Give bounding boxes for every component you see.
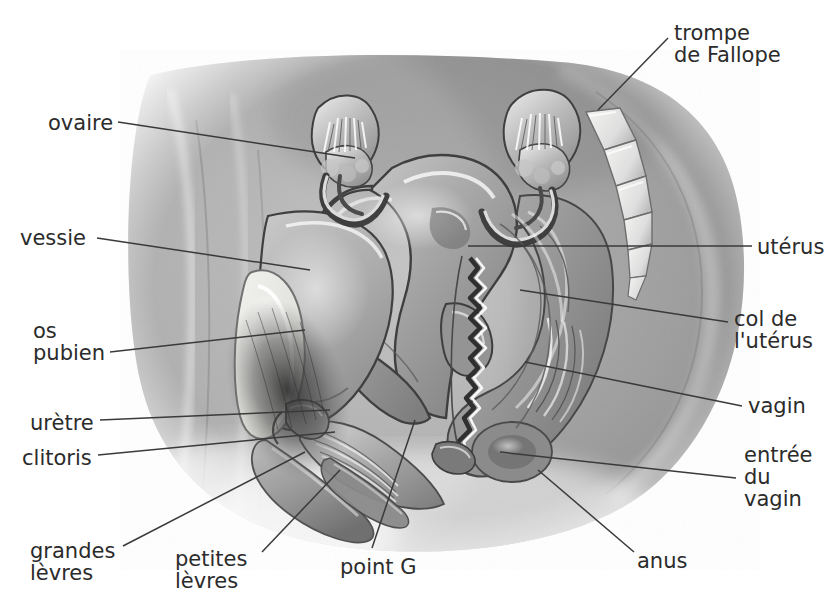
- label-uterus: utérus: [757, 236, 824, 258]
- label-line: col de: [734, 308, 813, 330]
- diagram-canvas: trompede Fallopeovairevessieutéruscol de…: [0, 0, 839, 613]
- label-line: clitoris: [22, 447, 92, 469]
- label-line: lèvres: [30, 562, 115, 584]
- label-anus: anus: [637, 550, 687, 572]
- label-line: lèvres: [175, 570, 247, 592]
- label-line: vagin: [748, 395, 806, 417]
- label-os-pubien: ospubien: [33, 320, 105, 364]
- label-col-de-l-uterus: col del'utérus: [734, 308, 813, 352]
- label-line: pubien: [33, 342, 105, 364]
- label-line: vagin: [744, 488, 812, 510]
- label-line: ovaire: [48, 112, 113, 134]
- label-line: urètre: [30, 412, 94, 434]
- label-grandes-levres: grandeslèvres: [30, 540, 115, 584]
- anus-structure: [472, 422, 552, 482]
- label-petites-levres: petiteslèvres: [175, 548, 247, 592]
- label-line: utérus: [757, 236, 824, 258]
- label-ovaire: ovaire: [48, 112, 113, 134]
- label-vessie: vessie: [20, 227, 86, 249]
- label-trompe-de-fallope: trompede Fallope: [674, 22, 781, 66]
- label-line: trompe: [674, 22, 781, 44]
- anatomy-illustration: [0, 0, 839, 613]
- label-point-g: point G: [340, 556, 417, 578]
- label-line: de Fallope: [674, 44, 781, 66]
- label-line: entrée: [744, 444, 812, 466]
- label-line: os: [33, 320, 105, 342]
- label-uretre: urètre: [30, 412, 94, 434]
- label-clitoris: clitoris: [22, 447, 92, 469]
- label-line: petites: [175, 548, 247, 570]
- label-line: du: [744, 466, 812, 488]
- label-line: vessie: [20, 227, 86, 249]
- label-vagin: vagin: [748, 395, 806, 417]
- label-line: anus: [637, 550, 687, 572]
- label-entree-du-vagin: entréeduvagin: [744, 444, 812, 510]
- label-line: point G: [340, 556, 417, 578]
- label-line: grandes: [30, 540, 115, 562]
- label-line: l'utérus: [734, 330, 813, 352]
